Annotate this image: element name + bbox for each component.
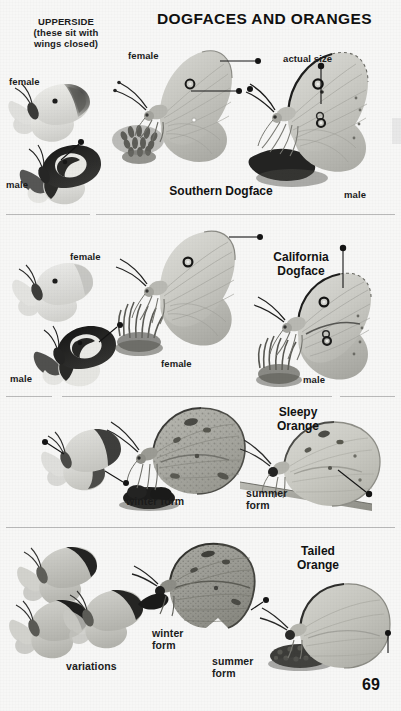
specimen-side-female-california bbox=[110, 228, 260, 368]
label-sleepy-orange-summer-form: summer form bbox=[246, 487, 287, 512]
page-number: 69 bbox=[362, 676, 380, 694]
label-tailed-orange-winter-form: winter form bbox=[152, 627, 184, 652]
upperside-note: UPPERSIDE (these sit with wings closed) bbox=[6, 16, 126, 50]
label-upperside-female-california: female bbox=[70, 251, 101, 262]
specimen-side-female-southern bbox=[108, 44, 258, 194]
species-name-sleepy-orange: Sleepy Orange bbox=[252, 406, 344, 434]
label-actual-size-southern: actual size bbox=[283, 53, 332, 64]
field-guide-page: UPPERSIDE (these sit with wings closed) … bbox=[0, 0, 401, 711]
section-divider-1b bbox=[96, 214, 395, 215]
section-divider-1 bbox=[6, 214, 90, 215]
section-divider-3 bbox=[6, 527, 395, 528]
label-upperside-female-southern: female bbox=[9, 76, 40, 87]
label-tailed-orange-summer-form: summer form bbox=[212, 655, 253, 680]
specimen-side-male-southern bbox=[244, 48, 401, 200]
label-sleepy-orange-winter-form: winter form bbox=[126, 495, 184, 507]
specimen-tailed-orange-summer-form bbox=[252, 580, 401, 690]
label-tailed-orange-variations: variations bbox=[66, 660, 117, 672]
label-side-male-california: male bbox=[303, 374, 325, 385]
label-side-female-california: female bbox=[161, 358, 192, 369]
species-name-southern-dogface: Southern Dogface bbox=[146, 185, 296, 199]
label-upperside-male-california: male bbox=[10, 373, 32, 384]
label-side-female-southern: female bbox=[128, 50, 159, 61]
page-title: DOGFACES AND ORANGES bbox=[157, 10, 372, 28]
specimen-upperside-male-southern bbox=[18, 140, 118, 212]
section-divider-2 bbox=[6, 396, 52, 397]
species-name-tailed-orange: Tailed Orange bbox=[272, 545, 364, 573]
label-side-male-southern: male bbox=[344, 189, 366, 200]
label-upperside-male-southern: male bbox=[6, 179, 28, 190]
species-name-california-dogface: California Dogface bbox=[246, 251, 356, 279]
